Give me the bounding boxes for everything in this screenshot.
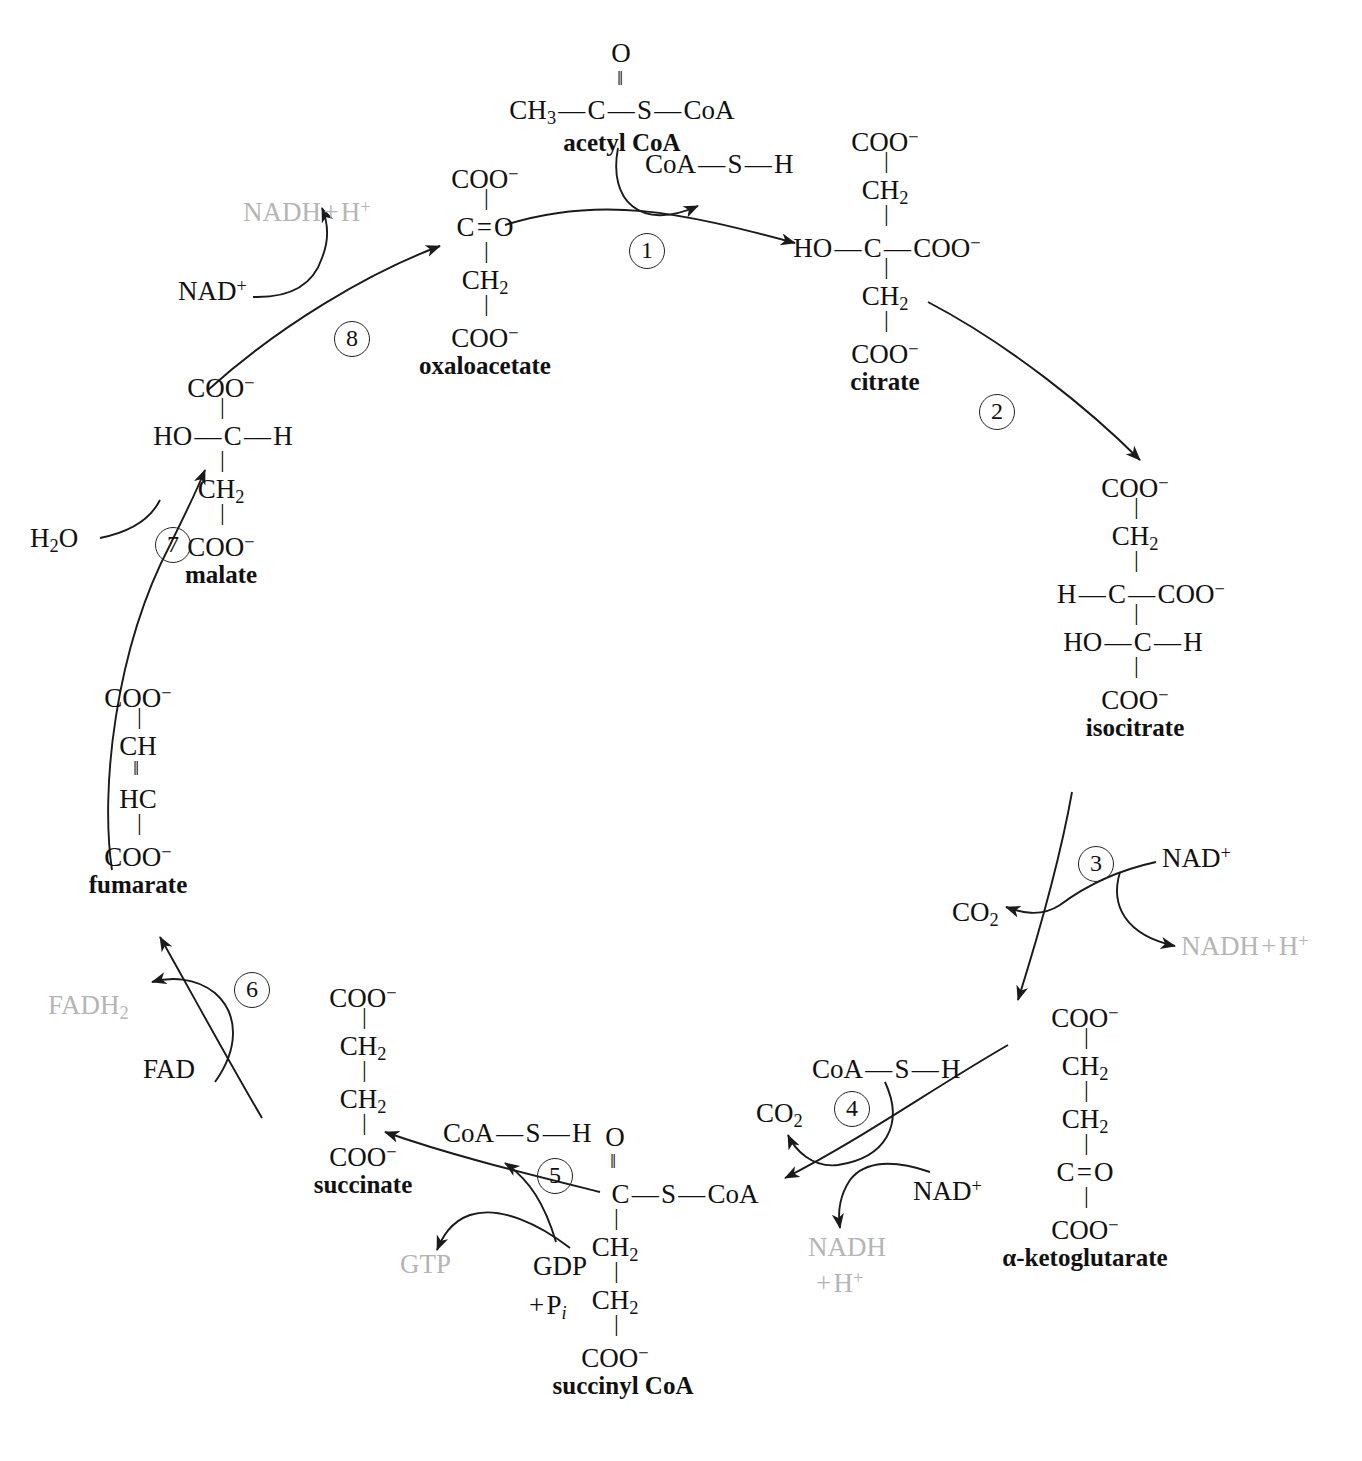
nad-plus-step8-label: NAD+ [178,276,247,307]
isocitrate-row-4: HO — C — H [1038,627,1228,658]
oxaloacetate-bond-2: | [400,243,570,265]
citrate-row-5: COO− [790,334,980,365]
molecule-alpha-ketoglutarate: COO− | CH2 | CH2 | C = O | COO− α-ketogl… [1000,998,1170,1273]
step-number-1[interactable]: 1 [629,233,665,269]
step-number-5[interactable]: 5 [537,1158,573,1194]
akg-row-5: COO− [1000,1210,1170,1241]
succinyl-coa-row-5: COO− [490,1338,740,1369]
nadh-step4-line1-label: NADH [808,1232,886,1263]
molecule-acetyl-coa: O ‖ CH3 — C — S — CoA acetyl CoA [488,38,756,158]
oxaloacetate-row-4: COO− [400,318,570,349]
citrate-bond-3: | [790,259,980,281]
fumarate-bond-1: | [58,709,218,731]
arrow-step-3 [1018,792,1072,1000]
nad-plus-step4-label: NAD+ [913,1176,982,1207]
succinate-row-4: COO− [278,1137,448,1168]
succinyl-coa-row-2: C — S — CoA [560,1179,810,1210]
fad-label: FAD [143,1054,195,1085]
co2-step3-label: CO2 [952,897,999,931]
molecule-fumarate: COO− | CH ‖ HC | COO− fumarate [58,678,218,900]
succinyl-coa-double-bond: ‖ [540,1153,790,1179]
isocitrate-row-3: H — C — COO− [1046,574,1236,605]
coa-sh-step5-label: CoA — S — H [443,1118,592,1149]
akg-bond-2: | [1000,1082,1170,1104]
nadh-step3-label: NADH + H+ [1181,931,1309,962]
isocitrate-bond-2: | [1040,552,1230,574]
step-number-7[interactable]: 7 [155,527,191,563]
molecule-isocitrate: COO− | CH2 | H — C — COO− | HO — C — H |… [1040,468,1230,743]
fumarate-bond-3: | [58,815,218,837]
citrate-label: citrate [790,367,980,397]
citrate-bond-1: | [790,153,980,175]
malate-bond-1: | [128,399,318,421]
malate-label: malate [126,560,316,590]
acetyl-coa-double-bond: ‖ [488,69,756,95]
succinyl-coa-label: succinyl CoA [498,1371,748,1401]
succinate-bond-2: | [278,1062,448,1084]
coa-sh-step4-label: CoA — S — H [812,1054,961,1085]
acetyl-coa-chain: CH3 — C — S — CoA [488,95,756,126]
isocitrate-bond-4: | [1040,658,1230,680]
coa-sh-step1-label: CoA — S — H [645,149,794,180]
oxaloacetate-bond-3: | [400,296,570,318]
isocitrate-label: isocitrate [1040,713,1230,743]
arrow-step-6 [160,937,262,1118]
nad-plus-step3-label: NAD+ [1162,843,1231,874]
isocitrate-row-5: COO− [1040,680,1230,711]
nadh-step4-line2-label: + H+ [816,1268,863,1299]
succinate-label: succinate [278,1170,448,1200]
step-number-6[interactable]: 6 [234,972,270,1008]
citric-acid-cycle-diagram: O ‖ CH3 — C — S — CoA acetyl CoA CoA — S… [0,0,1362,1461]
molecule-citrate: COO− | CH2 | HO — C — COO− | CH2 | COO− … [790,122,980,397]
step-number-8[interactable]: 8 [334,321,370,357]
nadh-step8-label: NADH + H+ [243,197,371,228]
alpha-ketoglutarate-label: α-ketoglutarate [1000,1243,1170,1273]
succinate-bond-1: | [278,1009,448,1031]
molecule-succinate: COO− | CH2 | CH2 | COO− succinate [278,978,448,1200]
isocitrate-bond-3: | [1040,605,1230,627]
pi-label: + Pi [529,1290,567,1324]
akg-bond-1: | [1000,1029,1170,1051]
succinyl-coa-bond-2: | [540,1210,790,1232]
isocitrate-bond-1: | [1040,499,1230,521]
fumarate-row-4: COO− [58,837,218,868]
water-label: H2O [30,523,78,557]
akg-bond-4: | [1000,1188,1170,1210]
molecule-oxaloacetate: COO− | C = O | CH2 | COO− oxaloacetate [400,159,570,381]
gdp-label: GDP [533,1251,587,1282]
succinyl-coa-bond-4: | [540,1316,790,1338]
molecule-malate: COO− | HO — C — H | CH2 | COO− malate [128,368,318,590]
oxaloacetate-bond-1: | [400,190,570,212]
succinate-bond-3: | [278,1115,448,1137]
citrate-bond-2: | [790,206,980,228]
arrow-step-3-nadh [1117,872,1175,946]
akg-bond-3: | [1000,1135,1170,1157]
step-number-2[interactable]: 2 [979,394,1015,430]
gtp-label: GTP [400,1249,451,1280]
fumarate-double-bond: ‖ [58,762,218,784]
oxaloacetate-label: oxaloacetate [400,351,570,381]
step-number-4[interactable]: 4 [834,1091,870,1127]
fadh2-label: FADH2 [48,990,129,1024]
malate-bond-2: | [128,452,318,474]
step-number-3[interactable]: 3 [1078,846,1114,882]
citrate-bond-4: | [790,312,980,334]
malate-bond-3: | [128,505,318,527]
fumarate-label: fumarate [58,870,218,900]
